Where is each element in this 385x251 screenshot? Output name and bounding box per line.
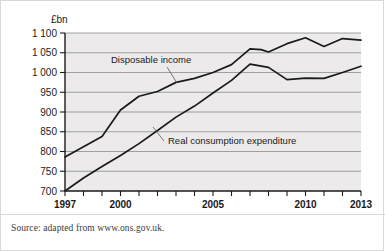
x-axis-tick-labels: 19972000200520102013 xyxy=(54,199,373,210)
y-tick-label: 700 xyxy=(40,186,57,197)
x-tick-label: 2013 xyxy=(350,199,373,210)
chart-canvas: 7007508008509009501 0001 0501 100 199720… xyxy=(1,1,385,211)
y-tick-label: 850 xyxy=(40,126,57,137)
source-divider xyxy=(1,214,385,215)
y-tick-label: 900 xyxy=(40,107,57,118)
series-annotation-label: Real consumption expenditure xyxy=(168,135,296,146)
y-axis-unit-label: £bn xyxy=(51,14,68,25)
x-tick-label: 2000 xyxy=(109,199,132,210)
x-tick-marks xyxy=(65,191,361,196)
x-tick-label: 1997 xyxy=(54,199,77,210)
y-tick-marks xyxy=(60,33,65,191)
line-chart: 7007508008509009501 0001 0501 100 199720… xyxy=(1,1,385,211)
y-tick-label: 800 xyxy=(40,146,57,157)
series-annotation-label: Disposable income xyxy=(111,54,191,65)
x-tick-label: 2005 xyxy=(202,199,225,210)
y-tick-label: 1 100 xyxy=(32,28,57,39)
y-tick-label: 1 000 xyxy=(32,67,57,78)
x-tick-label: 2010 xyxy=(294,199,317,210)
source-note: Source: adapted from www.ons.gov.uk. xyxy=(11,223,165,233)
y-axis-tick-labels: 7007508008509009501 0001 0501 100 xyxy=(32,28,57,197)
y-tick-label: 750 xyxy=(40,166,57,177)
y-tick-label: 1 050 xyxy=(32,47,57,58)
y-tick-label: 950 xyxy=(40,87,57,98)
